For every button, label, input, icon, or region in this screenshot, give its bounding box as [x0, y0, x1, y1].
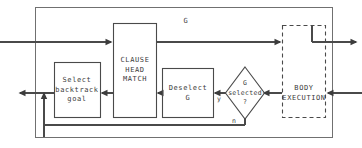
flowchart-diagram: G Select backtrack goal CLAUSE HEAD MATC… — [0, 0, 362, 148]
arrowhead-into-decision — [263, 90, 270, 96]
arrowhead-into-body-execution — [275, 39, 282, 45]
arrowhead-into-clause-head-match-bottom — [157, 90, 164, 96]
arrowhead-diagram-output — [351, 39, 358, 45]
outer-boundary-rect — [36, 8, 333, 138]
arrowhead-into-body-execution-right — [327, 90, 334, 96]
arrowhead-into-select-backtrack-goal — [101, 90, 108, 96]
flowchart-canvas — [0, 0, 362, 148]
arrowhead-into-clause-head-match — [106, 39, 113, 45]
arrowhead-into-deselect-g — [214, 90, 221, 96]
arrowhead-failure-output — [19, 90, 26, 96]
